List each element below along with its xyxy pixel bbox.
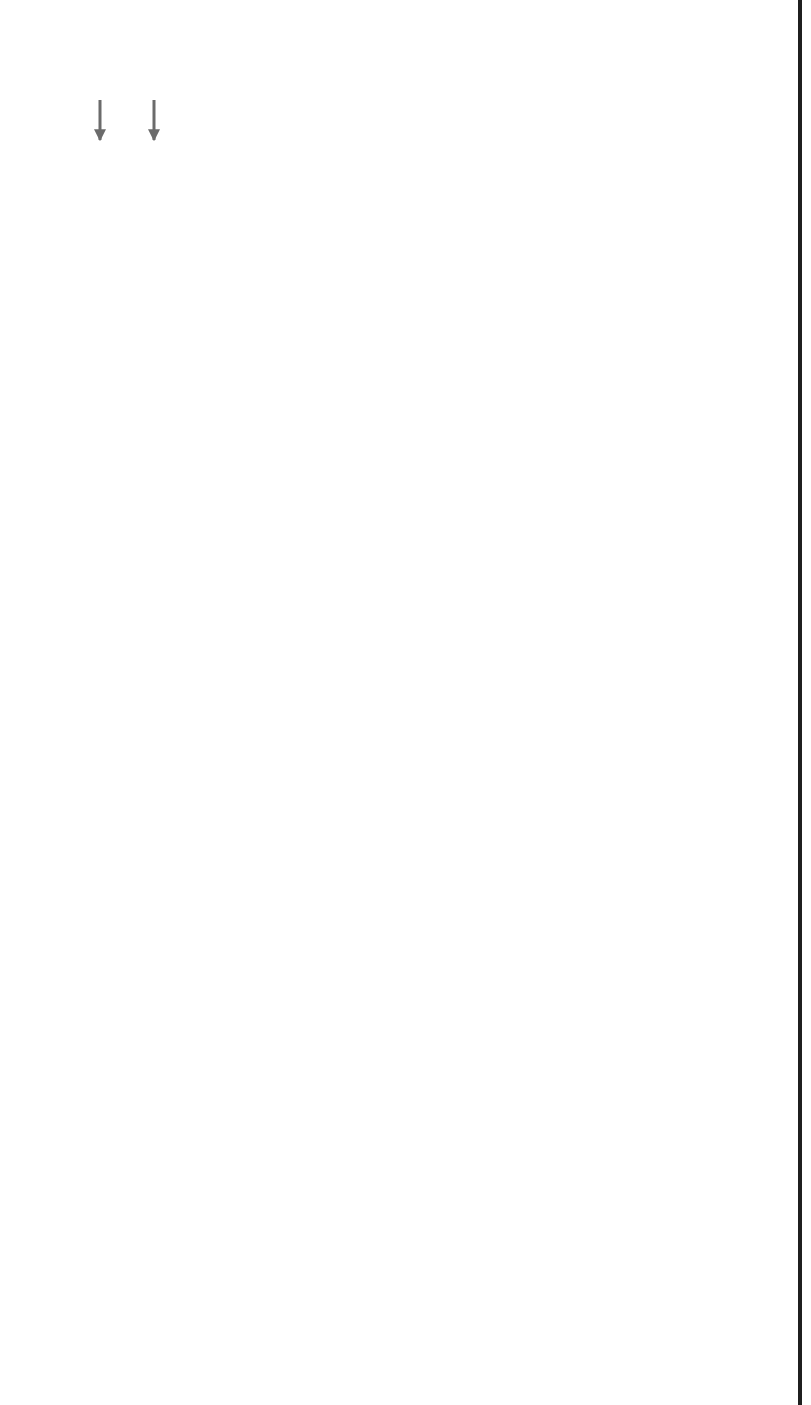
flow-diagram [0,0,811,1405]
diagram-stage [0,0,811,1405]
